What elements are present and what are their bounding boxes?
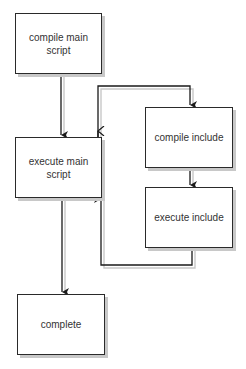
node-label: compile main script — [22, 31, 95, 57]
node-compile-main-script: compile main script — [15, 13, 102, 74]
node-complete: complete — [17, 294, 105, 355]
node-label: complete — [41, 318, 82, 331]
node-label: execute include — [154, 211, 224, 224]
node-execute-include: execute include — [145, 187, 233, 248]
node-compile-include: compile include — [145, 107, 233, 168]
node-execute-main-script: execute main script — [15, 137, 102, 198]
node-label: execute main script — [22, 155, 95, 181]
node-label: compile include — [155, 131, 224, 144]
